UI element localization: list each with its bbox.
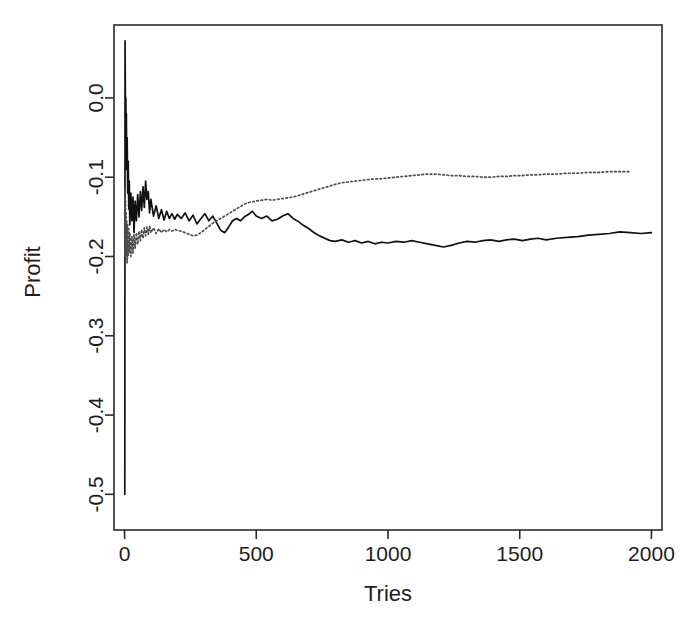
y-tick-label: -0.4 <box>85 397 108 434</box>
x-tick-label: 1500 <box>496 542 543 565</box>
profit-vs-tries-line-chart: 0.0-0.1-0.2-0.3-0.4-0.5 0500100015002000… <box>0 0 697 628</box>
y-tick-label: -0.3 <box>85 318 108 354</box>
y-tick-label: -0.2 <box>85 238 108 274</box>
x-tick-label: 1000 <box>365 542 412 565</box>
x-axis-title: Tries <box>364 581 412 606</box>
y-tick-label: -0.1 <box>85 159 108 195</box>
y-tick-label: -0.5 <box>85 476 108 512</box>
x-tick-label: 2000 <box>628 542 675 565</box>
y-axis-title: Profit <box>20 246 45 297</box>
y-tick-label: 0.0 <box>85 83 108 112</box>
x-tick-label: 0 <box>119 542 131 565</box>
chart-figure: 0.0-0.1-0.2-0.3-0.4-0.5 0500100015002000… <box>0 0 697 628</box>
x-tick-label: 500 <box>239 542 274 565</box>
